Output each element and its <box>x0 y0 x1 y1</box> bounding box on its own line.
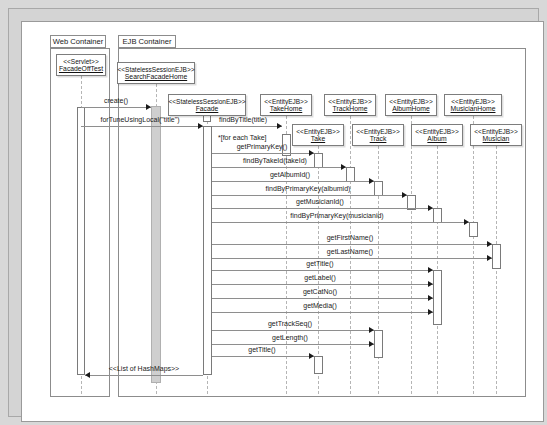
participant-name: AlbumHome <box>392 105 429 113</box>
message-line-m3 <box>212 126 282 127</box>
message-label-m6: getAlbumId() <box>270 171 310 178</box>
message-arrowhead-m3 <box>277 123 282 129</box>
activation-bar-a-track2 <box>374 330 383 358</box>
message-line-m6 <box>212 181 374 182</box>
participant-stereotype: <<EntityEJB>> <box>328 98 371 105</box>
activation-bar-a-take2 <box>314 356 323 374</box>
participant-stereotype: <<EntityEJB>> <box>389 98 432 105</box>
participant-facade[interactable]: <<StatelessSessionEJB>>Facade <box>168 94 246 116</box>
lifeline-musician <box>496 146 497 394</box>
participant-servlet[interactable]: <<Servlet>>FacadeOffTest <box>56 54 106 76</box>
window-frame: Web ContainerEJB Container<<Servlet>>Fac… <box>8 8 539 417</box>
participant-trackhome[interactable]: <<EntityEJB>>TrackHome <box>324 94 376 116</box>
message-line-m12 <box>212 270 433 271</box>
activation-bar-a-musician <box>492 244 501 269</box>
participant-name: Album <box>427 135 446 143</box>
message-label-m15: getMedia() <box>303 302 336 309</box>
message-line-m10 <box>212 244 492 245</box>
participant-name: Take <box>311 135 325 143</box>
message-arrowhead-m6 <box>369 178 374 184</box>
message-arrowhead-m11 <box>487 255 492 261</box>
activation-bar-a-sfhome <box>151 106 161 383</box>
message-label-m19: <<List of HashMaps>> <box>109 365 179 372</box>
participant-stereotype: <<EntityEJB>> <box>451 98 494 105</box>
message-label-m13: getLabel() <box>304 274 336 281</box>
message-label-m5: findByTakeId(takeId) <box>243 157 307 164</box>
container-label-ejb: EJB Container <box>118 35 176 48</box>
participant-stereotype: <<StatelessSessionEJB>> <box>118 66 195 73</box>
message-line-m8 <box>212 208 433 209</box>
message-line-m15 <box>212 312 433 313</box>
message-arrowhead-m7 <box>402 192 407 198</box>
message-line-m13 <box>212 284 433 285</box>
message-label-m4: getPrimaryKey() <box>237 143 288 150</box>
message-arrowhead-m16 <box>369 327 374 333</box>
participant-stereotype: <<EntityEJB>> <box>296 128 339 135</box>
message-label-m11: getLastName() <box>327 248 373 255</box>
activation-bar-a-mushome <box>469 222 478 237</box>
message-label-m7: findByPrimaryKey(albumid) <box>266 185 351 192</box>
message-label-m17: getLength() <box>272 334 308 341</box>
participant-stereotype: <<EntityEJB>> <box>356 128 399 135</box>
activation-bar-a-album2 <box>433 270 442 325</box>
message-arrowhead-m8 <box>428 205 433 211</box>
message-arrowhead-m13 <box>428 281 433 287</box>
participant-take[interactable]: <<EntityEJB>>Take <box>292 124 344 146</box>
message-label-m10: getFirstName() <box>327 234 374 241</box>
message-arrowhead-m10 <box>487 241 492 247</box>
participant-name: Musician <box>483 135 510 143</box>
participant-name: TrackHome <box>333 105 368 113</box>
message-arrowhead-m17 <box>369 341 374 347</box>
participant-name: MusicianHome <box>451 105 496 113</box>
participant-stereotype: <<EntityEJB>> <box>264 98 307 105</box>
sequence-diagram-canvas: Web ContainerEJB Container<<Servlet>>Fac… <box>22 22 545 423</box>
message-arrowhead-m15 <box>428 309 433 315</box>
participant-musicianhome[interactable]: <<EntityEJB>>MusicianHome <box>444 94 502 116</box>
guard-label-g1: *[for each Take] <box>218 134 267 141</box>
participant-name: Facade <box>196 105 219 113</box>
diagram-frame: Web ContainerEJB Container<<Servlet>>Fac… <box>21 21 544 422</box>
participant-track[interactable]: <<EntityEJB>>Track <box>352 124 404 146</box>
activation-bar-a-take1 <box>314 153 323 168</box>
message-line-m18 <box>212 356 314 357</box>
activation-bar-a-track1 <box>374 181 383 196</box>
message-label-m3: findByTitle(title) <box>219 116 267 123</box>
message-line-m5 <box>212 167 346 168</box>
participant-stereotype: <<StatelessSessionEJB>> <box>169 98 246 105</box>
message-arrowhead-m1 <box>146 104 151 110</box>
message-label-m9: findByPrimaryKey(musicianid) <box>290 212 383 219</box>
message-line-m7 <box>212 195 407 196</box>
participant-name: TakeHome <box>270 105 303 113</box>
participant-musician[interactable]: <<EntityEJB>>Musician <box>470 124 522 146</box>
message-line-m14 <box>212 298 433 299</box>
message-arrowhead-m2 <box>198 123 203 129</box>
participant-album[interactable]: <<EntityEJB>>Album <box>411 124 463 146</box>
participant-sfhome[interactable]: <<StatelessSessionEJB>>SearchFacadeHome <box>117 62 195 84</box>
participant-stereotype: <<EntityEJB>> <box>474 128 517 135</box>
activation-bar-a-facade <box>203 126 212 375</box>
message-label-m18: getTitle() <box>248 346 275 353</box>
message-line-m2 <box>81 126 203 127</box>
message-line-m19 <box>85 375 203 376</box>
activation-bar-a-album1 <box>433 208 442 223</box>
message-arrowhead-m18 <box>309 353 314 359</box>
message-label-m2: forTuneUsingLocal("title") <box>100 116 179 123</box>
participant-takehome[interactable]: <<EntityEJB>>TakeHome <box>260 94 312 116</box>
message-line-m11 <box>212 258 492 259</box>
message-arrowhead-m14 <box>428 295 433 301</box>
activation-bar-a-servlet <box>77 107 85 375</box>
message-label-m14: getCatNo() <box>303 288 337 295</box>
lifeline-trackhome <box>350 116 351 394</box>
participant-name: SearchFacadeHome <box>125 73 187 81</box>
activation-bar-a-trackh <box>346 167 355 182</box>
message-arrowhead-m5 <box>341 164 346 170</box>
container-label-web: Web Container <box>50 35 106 48</box>
message-label-m16: getTrackSeq() <box>268 320 312 327</box>
participant-albumhome[interactable]: <<EntityEJB>>AlbumHome <box>385 94 437 116</box>
message-label-m12: getTitle() <box>306 260 333 267</box>
screenshot-root: Web ContainerEJB Container<<Servlet>>Fac… <box>0 0 547 425</box>
message-arrowhead-m9 <box>464 219 469 225</box>
message-arrowhead-m4 <box>309 150 314 156</box>
message-line-m17 <box>212 344 374 345</box>
message-arrowhead-m19 <box>85 372 90 378</box>
